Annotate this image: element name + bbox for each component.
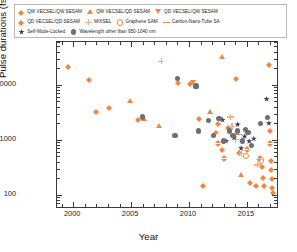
y-tick-label: 1000 — [0, 135, 16, 142]
legend-entry[interactable]: Carbon-Nano-Tube SA — [163, 19, 220, 26]
filled-circle-icon — [221, 138, 226, 143]
legend-marker — [18, 19, 25, 26]
data-point — [220, 138, 227, 145]
legend-entry[interactable]: QD VECSEL/QD SESAM — [18, 19, 80, 26]
x-axis-tick — [131, 202, 132, 207]
diamond-icon — [106, 102, 112, 108]
data-point — [227, 113, 234, 120]
x-axis-tick — [270, 42, 271, 45]
filled-circle-icon — [172, 133, 177, 138]
data-point — [196, 114, 203, 121]
x-axis-tick — [235, 204, 236, 207]
y-axis-tick — [274, 169, 277, 170]
legend-entry-label: QD VECSEL/QW SESAM — [164, 10, 218, 15]
x-axis-tick — [270, 204, 271, 207]
legend-entry-label: QD VECSEL/QD SESAM — [27, 20, 80, 25]
data-point — [205, 117, 212, 124]
y-axis-tick — [57, 107, 60, 108]
legend-entry[interactable]: Wavelength other than 950-1040 nm — [70, 29, 155, 36]
data-point — [93, 107, 100, 114]
star-icon — [238, 145, 244, 151]
data-point — [216, 115, 223, 122]
legend-entry[interactable]: QW VECSEL/QW SESAM — [18, 9, 82, 16]
x-axis-tick — [212, 204, 213, 207]
legend-entry[interactable]: QW VECSEL/QD SESAM — [87, 9, 150, 16]
diamond-icon — [18, 17, 24, 23]
x-axis-tick — [235, 42, 236, 45]
dash-icon — [163, 22, 170, 23]
legend-row: QD VECSEL/QD SESAMMIXSELGraphene SAMCarb… — [18, 17, 283, 27]
x-axis-tick — [177, 204, 178, 207]
diamond-icon — [253, 180, 259, 186]
y-axis-tick — [57, 142, 60, 143]
x-tick-label: 2005 — [110, 210, 150, 217]
x-axis-tick — [258, 42, 259, 45]
y-axis-tick — [57, 42, 60, 43]
data-point — [261, 182, 268, 189]
data-point — [265, 60, 272, 67]
y-axis-tick — [274, 87, 277, 88]
data-point — [238, 171, 245, 178]
x-axis-tick — [62, 204, 63, 207]
star-icon — [251, 135, 257, 141]
x-axis-tick — [85, 204, 86, 207]
legend-entry[interactable]: Graphene SAM — [116, 19, 157, 26]
y-axis-tick — [274, 197, 277, 198]
y-axis-tick — [57, 68, 60, 69]
data-point — [239, 138, 246, 145]
legend-entry[interactable]: MIXSEL — [85, 19, 111, 26]
y-axis-tick — [57, 200, 60, 201]
y-axis-tick — [57, 156, 60, 157]
y-axis-tick — [272, 195, 277, 196]
diamond-icon — [196, 113, 202, 119]
filled-circle-icon — [240, 138, 245, 143]
data-point — [263, 96, 270, 103]
data-point — [65, 62, 72, 69]
filled-circle-icon — [235, 128, 240, 133]
filled-circle-icon — [249, 143, 254, 148]
diamond-icon — [260, 172, 266, 178]
filled-circle-icon — [71, 29, 76, 34]
legend-marker — [70, 29, 77, 36]
legend-marker — [116, 19, 123, 26]
legend-entry[interactable]: QD VECSEL/QW SESAM — [155, 9, 218, 16]
data-point — [199, 182, 206, 189]
chart-figure: QW VECSEL/QW SESAMQW VECSEL/QD SESAMQD V… — [0, 0, 297, 252]
data-point — [174, 75, 181, 82]
filled-circle-icon — [206, 118, 211, 123]
y-axis-tick — [274, 148, 277, 149]
filled-circle-icon — [193, 83, 198, 88]
diamond-icon — [93, 106, 99, 112]
triangle-up-icon — [238, 172, 244, 177]
y-axis-tick — [57, 123, 60, 124]
y-axis-tick — [274, 97, 277, 98]
diamond-icon — [219, 144, 225, 150]
y-axis-tick — [274, 207, 277, 208]
x-axis-tick — [120, 204, 121, 207]
data-point — [195, 127, 202, 134]
legend-entry-label: QW VECSEL/QW SESAM — [27, 10, 82, 15]
triangle-up-icon — [207, 109, 213, 114]
legend-entry-label: MIXSEL — [94, 20, 111, 25]
filled-circle-icon — [211, 133, 216, 138]
data-point — [158, 58, 165, 65]
y-axis-tick — [274, 46, 277, 47]
data-point — [245, 129, 252, 136]
open-circle-icon — [117, 19, 123, 25]
y-axis-tick — [274, 93, 277, 94]
diamond-icon — [266, 59, 272, 65]
legend-marker — [85, 19, 92, 26]
star-icon — [18, 29, 24, 35]
data-point — [219, 53, 226, 60]
triangle-up-icon — [127, 98, 133, 103]
x-axis-tick — [108, 204, 109, 207]
data-point — [86, 75, 93, 82]
x-axis-label: Year — [0, 231, 297, 242]
legend-entry[interactable]: Self-Mode-Locked — [18, 29, 65, 36]
diamond-icon — [261, 180, 267, 186]
y-axis-tick — [57, 203, 60, 204]
data-point — [257, 120, 264, 127]
y-axis-tick — [274, 156, 277, 157]
data-point — [257, 156, 264, 163]
x-axis-tick — [73, 202, 74, 207]
